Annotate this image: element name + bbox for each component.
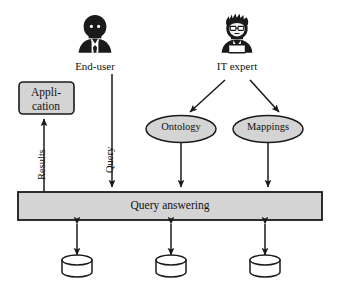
it-expert-label: IT expert xyxy=(182,60,292,73)
datastore-cylinder-1 xyxy=(62,255,92,277)
datastore-cylinder-3 xyxy=(250,255,280,277)
user-avatar-icon xyxy=(79,15,112,53)
results-edge-label: Results xyxy=(36,149,47,180)
query-answering-label: Query answering xyxy=(18,199,322,213)
application-label: Appli- cation xyxy=(16,86,76,113)
edge-expert-to-mappings xyxy=(250,80,279,112)
mappings-label: Mappings xyxy=(232,121,304,132)
end-user-label: End-user xyxy=(40,60,150,73)
developer-avatar-icon xyxy=(222,13,253,52)
ontology-label: Ontology xyxy=(146,121,216,132)
query-edge-label: Query xyxy=(104,147,115,173)
application-label-line-1: Appli- xyxy=(16,86,76,100)
diagram-canvas xyxy=(0,0,339,285)
application-label-line-2: cation xyxy=(16,100,76,114)
edge-expert-to-ontology xyxy=(190,80,225,112)
datastore-cylinder-2 xyxy=(156,255,186,277)
architecture-diagram: End-user IT expert Appli- cation Ontolog… xyxy=(0,0,339,285)
